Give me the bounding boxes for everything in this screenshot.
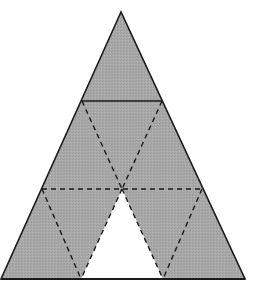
- triangle-diagram: [0, 0, 262, 285]
- triangle-figure: [0, 0, 262, 285]
